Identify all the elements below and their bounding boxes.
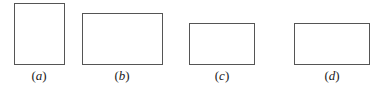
label-paren: ) [125,68,129,83]
panel-a-rectangle [14,3,65,65]
panel-c-rectangle [189,23,255,65]
panel-d-rectangle [294,23,370,65]
panel-c-label: (c) [192,68,252,84]
panel-d-label: (d) [302,68,362,84]
label-paren: ) [225,68,229,83]
panel-b-label: (b) [92,68,152,84]
label-paren: ) [42,68,46,83]
panel-b-rectangle [82,13,163,65]
panel-a-label: (a) [9,68,69,84]
label-paren: ) [335,68,339,83]
